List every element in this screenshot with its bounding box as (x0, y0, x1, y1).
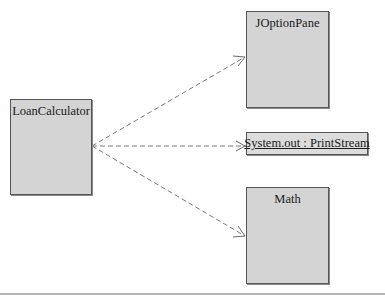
class-name: LoanCalculator (11, 104, 91, 119)
class-name: Math (247, 192, 328, 207)
object-system-out[interactable]: System.out : PrintStream (246, 132, 368, 155)
bottom-divider (0, 293, 385, 295)
edge-to-joptionpane (92, 57, 245, 146)
object-name: System.out : PrintStream (244, 136, 369, 151)
class-joptionpane[interactable]: JOptionPane (246, 11, 329, 108)
class-math[interactable]: Math (246, 187, 329, 284)
edge-to-math (92, 146, 245, 236)
class-loancalculator[interactable]: LoanCalculator (10, 99, 92, 195)
arrowhead-math-icon (233, 226, 245, 237)
class-name: JOptionPane (247, 16, 328, 31)
